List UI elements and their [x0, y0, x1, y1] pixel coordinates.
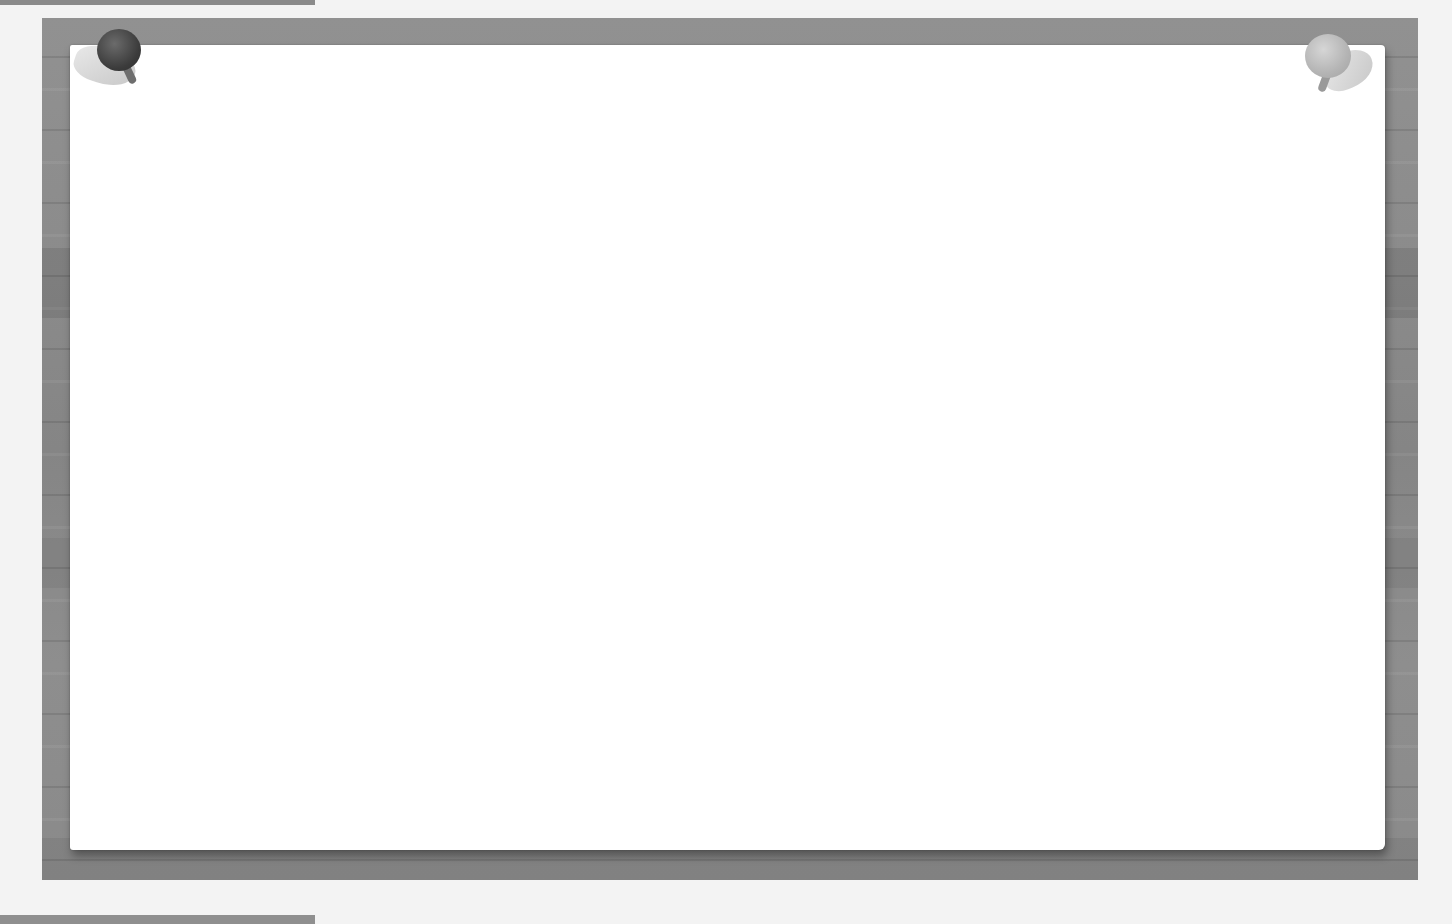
pinned-paper-sheet	[70, 45, 1385, 850]
bottom-edge-bar	[0, 915, 315, 924]
push-pin-icon	[1305, 34, 1351, 78]
top-edge-bar	[0, 0, 315, 5]
push-pin-icon	[97, 29, 141, 71]
